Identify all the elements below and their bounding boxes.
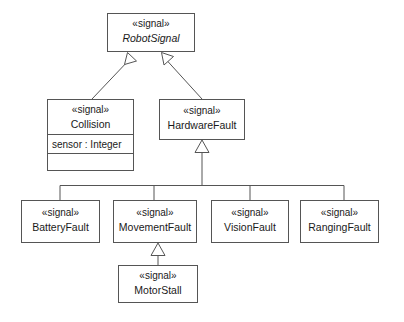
class-node-visionfault[interactable]: «signal» VisionFault: [212, 201, 289, 243]
generalization-arrowhead: [162, 53, 174, 66]
class-name: HardwareFault: [168, 119, 237, 131]
class-stereotype: «signal»: [183, 105, 221, 116]
class-name: VisionFault: [224, 221, 276, 233]
generalization-hardwarefault-to-robotsignal[interactable]: [162, 53, 203, 100]
generalization-arrowhead: [151, 243, 165, 256]
class-name: MovementFault: [119, 221, 191, 233]
class-stereotype: «signal»: [139, 270, 177, 281]
class-name: MotorStall: [134, 284, 181, 296]
class-attribute: sensor : Integer: [52, 139, 122, 150]
class-node-rangingfault[interactable]: «signal» RangingFault: [301, 201, 379, 243]
class-name: RangingFault: [308, 221, 371, 233]
class-stereotype: «signal»: [321, 207, 359, 218]
class-node-robotsignal[interactable]: «signal» RobotSignal: [108, 14, 195, 52]
class-node-batteryfault[interactable]: «signal» BatteryFault: [22, 201, 100, 243]
uml-class-diagram: «signal» RobotSignal «signal» Collision …: [0, 0, 404, 322]
class-name: RobotSignal: [122, 32, 180, 44]
class-name: Collision: [71, 118, 111, 130]
class-stereotype: «signal»: [42, 207, 80, 218]
generalization-arrowhead: [125, 53, 137, 65]
generalization-arrowhead: [195, 140, 209, 153]
class-node-collision[interactable]: «signal» Collision sensor : Integer: [48, 100, 134, 171]
class-stereotype: «signal»: [132, 18, 170, 29]
class-node-hardwarefault[interactable]: «signal» HardwareFault: [160, 100, 245, 140]
generalization-collision-to-robotsignal[interactable]: [92, 53, 137, 100]
class-name: BatteryFault: [32, 221, 89, 233]
class-stereotype: «signal»: [136, 207, 174, 218]
class-node-motorstall[interactable]: «signal» MotorStall: [119, 266, 198, 303]
class-stereotype: «signal»: [231, 207, 269, 218]
class-stereotype: «signal»: [72, 104, 110, 115]
generalization-motorstall-to-movementfault[interactable]: [151, 243, 165, 265]
class-node-movementfault[interactable]: «signal» MovementFault: [114, 201, 197, 243]
